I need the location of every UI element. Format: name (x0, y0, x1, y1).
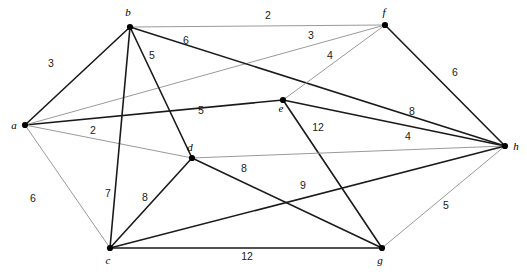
graph-edge-e-g (283, 100, 382, 248)
edge-weight-label-a-e: 5 (198, 104, 204, 116)
edge-weight-label-a-b: 3 (48, 57, 54, 69)
edge-weight-label-b-h: 6 (183, 34, 189, 46)
graph-edge-c-h (110, 146, 505, 248)
graph-node-b (127, 24, 133, 30)
node-label-g: g (377, 254, 383, 266)
node-label-f: f (382, 6, 387, 18)
graph-edge-f-h (385, 25, 505, 146)
graph-node-f (382, 22, 388, 28)
graph-edge-d-c (110, 158, 192, 248)
node-label-b: b (125, 6, 131, 18)
node-label-c: c (106, 254, 111, 266)
edge-line-group (25, 25, 505, 248)
edge-weight-label-b-c: 7 (105, 187, 111, 199)
graph-node-h (502, 143, 508, 149)
edge-weight-label-a-d: 2 (90, 124, 96, 136)
edge-weight-label-b-f: 2 (265, 9, 271, 21)
edge-weight-label-c-h: 9 (300, 179, 306, 191)
node-label-a: a (11, 119, 17, 131)
node-label-e: e (279, 102, 284, 114)
node-label-h: h (513, 140, 519, 152)
edge-weight-label-d-c: 8 (142, 191, 148, 203)
edge-weight-label-group: 352362675481268489125 (30, 9, 458, 262)
edge-weight-label-e-f: 4 (327, 49, 333, 61)
edge-weight-label-e-h: 8 (409, 105, 415, 117)
edge-weight-label-c-g: 12 (241, 250, 253, 262)
graph-edge-b-c (110, 27, 130, 248)
node-label-group: abcdefgh (11, 6, 519, 266)
graph-edge-b-d (130, 27, 192, 158)
graph-node-d (189, 155, 195, 161)
edge-weight-label-d-h: 4 (405, 130, 411, 142)
edge-weight-label-a-c: 6 (30, 192, 36, 204)
graph-edge-e-f (283, 25, 385, 100)
graph-canvas: 352362675481268489125 abcdefgh (0, 0, 527, 277)
graph-node-c (107, 245, 113, 251)
graph-edge-a-d (25, 125, 192, 158)
graph-edge-a-c (25, 125, 110, 248)
edge-weight-label-a-f: 3 (308, 29, 314, 41)
graph-edge-b-f (130, 25, 385, 27)
graph-edge-a-e (25, 100, 283, 125)
edge-weight-label-f-h: 6 (452, 66, 458, 78)
edge-weight-label-e-g: 12 (312, 121, 324, 133)
graph-node-a (22, 122, 28, 128)
edge-weight-label-d-g: 8 (241, 162, 247, 174)
graph-figure: 352362675481268489125 abcdefgh (0, 0, 527, 277)
graph-node-g (379, 245, 385, 251)
graph-edge-d-h (192, 146, 505, 158)
edge-weight-label-b-d: 5 (149, 49, 155, 61)
edge-weight-label-g-h: 5 (443, 199, 449, 211)
node-label-d: d (187, 141, 193, 153)
node-dot-group (22, 22, 508, 251)
